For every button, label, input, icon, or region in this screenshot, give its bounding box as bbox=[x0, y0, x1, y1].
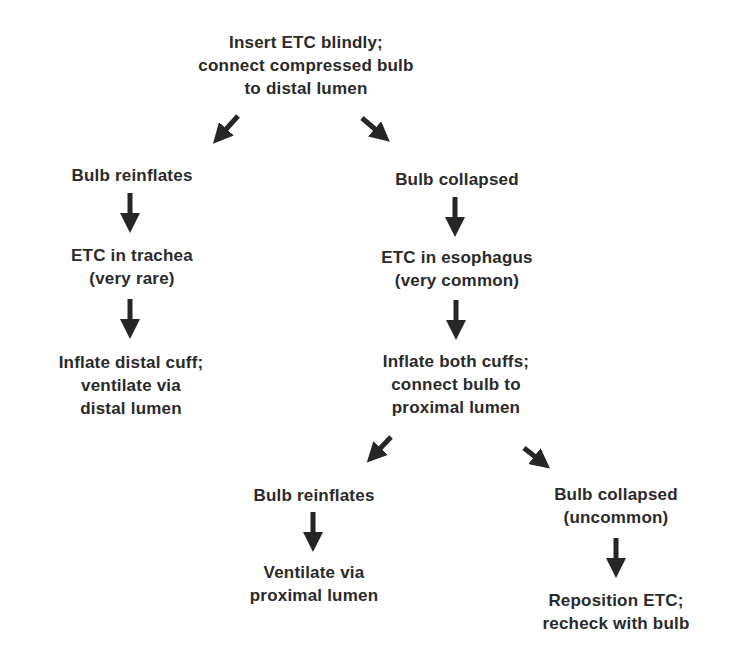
arrow-down-right-icon bbox=[524, 448, 543, 463]
node-text: to distal lumen bbox=[198, 77, 413, 100]
node-inflate-distal: Inflate distal cuff; ventilate via dista… bbox=[59, 351, 204, 420]
node-right-bulb-collapsed: Bulb collapsed bbox=[395, 168, 519, 191]
node-text: Inflate both cuffs; bbox=[383, 350, 529, 373]
node-start: Insert ETC blindly; connect compressed b… bbox=[198, 31, 413, 100]
node-reposition: Reposition ETC; recheck with bulb bbox=[543, 589, 690, 635]
arrow-down-right-icon bbox=[362, 118, 383, 136]
node-inflate-both: Inflate both cuffs; connect bulb to prox… bbox=[383, 350, 529, 419]
node-text: Bulb collapsed bbox=[395, 168, 519, 191]
node-text: proximal lumen bbox=[250, 584, 378, 607]
node-text: Insert ETC blindly; bbox=[198, 31, 413, 54]
node-text: ETC in esophagus bbox=[381, 246, 533, 269]
node-second-bulb-collapsed: Bulb collapsed (uncommon) bbox=[554, 483, 678, 529]
node-text: proximal lumen bbox=[383, 396, 529, 419]
node-etc-esophagus: ETC in esophagus (very common) bbox=[381, 246, 533, 292]
node-ventilate-proximal: Ventilate via proximal lumen bbox=[250, 561, 378, 607]
node-text: Inflate distal cuff; bbox=[59, 351, 204, 374]
node-text: connect compressed bulb bbox=[198, 54, 413, 77]
node-text: distal lumen bbox=[59, 397, 204, 420]
node-text: Reposition ETC; bbox=[543, 589, 690, 612]
node-text: Bulb reinflates bbox=[253, 484, 374, 507]
node-text: recheck with bulb bbox=[543, 612, 690, 635]
node-etc-trachea: ETC in trachea (very rare) bbox=[71, 244, 193, 290]
node-text: (very common) bbox=[381, 269, 533, 292]
node-text: Bulb collapsed bbox=[554, 483, 678, 506]
node-second-bulb-reinflates: Bulb reinflates bbox=[253, 484, 374, 507]
node-text: Bulb reinflates bbox=[71, 164, 192, 187]
node-text: connect bulb to bbox=[383, 373, 529, 396]
arrow-down-left-icon bbox=[373, 437, 391, 456]
arrow-down-left-icon bbox=[219, 116, 238, 137]
node-text: Ventilate via bbox=[250, 561, 378, 584]
node-text: ETC in trachea bbox=[71, 244, 193, 267]
node-left-bulb-reinflates: Bulb reinflates bbox=[71, 164, 192, 187]
node-text: (uncommon) bbox=[554, 506, 678, 529]
node-text: ventilate via bbox=[59, 374, 204, 397]
node-text: (very rare) bbox=[71, 267, 193, 290]
